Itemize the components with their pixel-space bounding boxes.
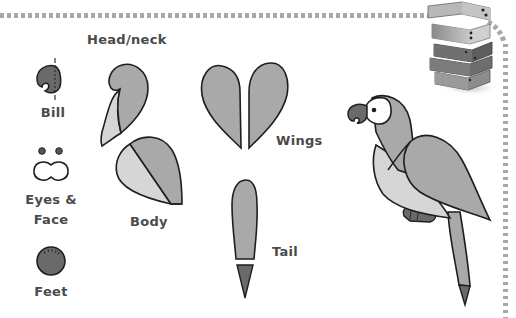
label-eyes-face-line1: Eyes & — [20, 192, 82, 208]
label-bill: Bill — [34, 105, 72, 121]
craft-template-page: Head/neck Bill Eyes & Face Feet Body Win… — [0, 0, 516, 318]
eyes-face-piece — [34, 148, 68, 180]
assembled-parrot-illustration — [348, 96, 490, 305]
label-head-neck: Head/neck — [87, 32, 167, 48]
label-feet: Feet — [30, 284, 72, 300]
bill-piece — [37, 58, 61, 100]
label-tail: Tail — [272, 244, 298, 260]
wings-piece — [202, 63, 288, 148]
stack-of-books-illustration — [428, 2, 500, 96]
label-wings: Wings — [276, 133, 323, 149]
feet-piece — [37, 247, 65, 275]
body-piece — [116, 137, 182, 204]
label-body: Body — [130, 214, 168, 230]
label-eyes-face-line2: Face — [20, 212, 82, 228]
template-artwork — [0, 0, 516, 318]
head-neck-piece — [101, 64, 148, 146]
tail-piece — [232, 180, 257, 298]
